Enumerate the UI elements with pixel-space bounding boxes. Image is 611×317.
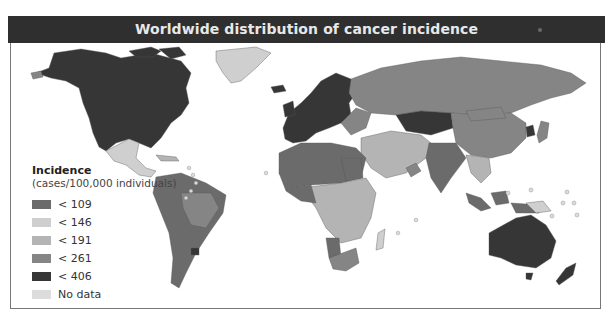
legend-item: < 109	[32, 195, 177, 213]
map-title: Worldwide distribution of cancer inciden…	[135, 21, 478, 37]
region-madagascar	[376, 229, 385, 250]
region-australia	[489, 215, 556, 268]
legend-swatch	[32, 236, 51, 245]
region-greenland	[216, 47, 271, 83]
legend-item: < 406	[32, 267, 177, 285]
region-north-america	[36, 49, 191, 151]
legend-label: < 109	[58, 198, 92, 211]
region-uruguay	[191, 248, 199, 255]
region-new-zealand	[556, 263, 576, 285]
region-indonesia	[466, 191, 541, 213]
legend-label: No data	[58, 288, 101, 301]
region-aleutian	[31, 71, 43, 79]
legend-label: < 406	[58, 270, 92, 283]
legend-title: Incidence	[32, 164, 177, 177]
region-tasmania	[526, 273, 533, 280]
legend-swatch	[32, 254, 51, 263]
region-iceland	[271, 85, 286, 93]
region-china	[451, 113, 526, 158]
legend-subtitle: (cases/100,000 individuals)	[32, 177, 177, 190]
legend-item: < 261	[32, 249, 177, 267]
legend-item: < 146	[32, 213, 177, 231]
legend-swatch	[32, 290, 51, 299]
legend-label: < 261	[58, 252, 92, 265]
legend-item: No data	[32, 285, 177, 303]
region-caribbean	[156, 155, 179, 161]
legend-label: < 191	[58, 234, 92, 247]
region-kazakhstan	[396, 111, 453, 135]
region-korea	[526, 125, 535, 137]
legend-swatch	[32, 272, 51, 281]
region-japan	[537, 121, 549, 143]
decorative-dot	[538, 28, 542, 32]
legend-label: < 146	[58, 216, 92, 229]
region-se-asia	[466, 155, 491, 183]
legend-item: < 191	[32, 231, 177, 249]
region-central-africa	[301, 178, 376, 243]
legend-swatch	[32, 200, 51, 209]
region-uk	[283, 101, 295, 117]
region-russia	[349, 57, 586, 115]
map-legend: Incidence (cases/100,000 individuals) < …	[32, 164, 177, 303]
legend-swatch	[32, 218, 51, 227]
title-bar: Worldwide distribution of cancer inciden…	[8, 16, 605, 43]
region-india	[426, 143, 466, 193]
